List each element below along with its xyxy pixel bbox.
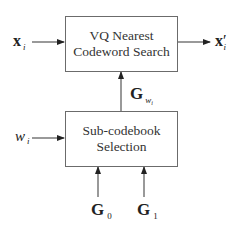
g1-symbol: G <box>137 200 150 219</box>
vq-nearest-codeword-search-box: VQ Nearest Codeword Search <box>65 16 178 72</box>
g1-label: G1 <box>137 200 158 220</box>
top-box-line2: Codeword Search <box>73 44 169 60</box>
g0-subscript: 0 <box>107 211 112 221</box>
w-symbol: w <box>15 128 25 144</box>
bottom-box-line1: Sub-codebook <box>83 123 161 139</box>
xprime-symbol: x <box>215 32 223 49</box>
g0-label: G0 <box>91 200 112 220</box>
input-w-label: wi <box>15 128 30 145</box>
gw-symbol: G <box>130 84 143 103</box>
sub-codebook-selection-box: Sub-codebook Selection <box>65 111 178 167</box>
g1-subscript: 1 <box>153 211 158 221</box>
xprime-subscript: i <box>224 42 227 52</box>
output-xprime-label: x′i <box>215 32 226 50</box>
gw-label: Gwi <box>130 84 153 104</box>
w-subscript: i <box>27 136 30 146</box>
g0-symbol: G <box>91 200 104 219</box>
top-box-line1: VQ Nearest <box>89 28 153 44</box>
x-subscript: i <box>23 42 26 52</box>
input-x-label: xi <box>13 32 26 50</box>
gw-sub-i: i <box>151 100 153 106</box>
gw-subscript: wi <box>145 95 153 105</box>
bottom-box-line2: Selection <box>96 139 146 155</box>
x-symbol: x <box>13 32 21 49</box>
